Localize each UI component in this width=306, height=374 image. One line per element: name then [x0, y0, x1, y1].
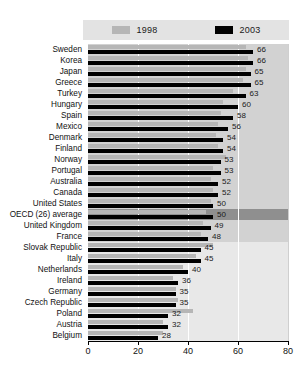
bar-value-label: 52: [222, 189, 231, 197]
x-axis-tick: [238, 341, 239, 345]
bar-value-label: 32: [172, 321, 181, 329]
category-label: Portugal: [52, 167, 83, 175]
category-label: Norway: [54, 156, 82, 164]
category-label: Czech Republic: [25, 299, 82, 307]
bar-2003: [88, 270, 188, 274]
bar-row: 63: [88, 88, 288, 99]
bar-2003: [88, 325, 168, 329]
bar-1998: [88, 122, 218, 126]
bar-2003: [88, 171, 221, 175]
category-label: United Kingdom: [24, 222, 82, 230]
bar-value-label: 50: [217, 200, 226, 208]
bar-row: 65: [88, 77, 288, 88]
bar-row: 52: [88, 187, 288, 198]
bar-row: 53: [88, 154, 288, 165]
bar-value-label: 56: [232, 123, 241, 131]
bar-value-label: 40: [192, 266, 201, 274]
bar-value-label: 65: [255, 79, 264, 87]
bar-row: 66: [88, 44, 288, 55]
bar-2003: [88, 50, 253, 54]
bar-1998: [88, 89, 233, 93]
bar-row: 66: [88, 55, 288, 66]
bar-row: 54: [88, 143, 288, 154]
bar-1998: [88, 287, 176, 291]
bar-row: 58: [88, 110, 288, 121]
category-label: Austria: [57, 321, 82, 329]
bar-1998: [88, 111, 221, 115]
bar-2003: [88, 138, 223, 142]
category-label: Italy: [67, 255, 82, 263]
bar-1998: [88, 199, 211, 203]
category-label: Sweden: [52, 46, 82, 54]
bar-2003: [88, 237, 208, 241]
bar-2003: [88, 127, 228, 131]
category-label: Finland: [55, 145, 82, 153]
bar-2003: [88, 149, 223, 153]
bar-row: 32: [88, 308, 288, 319]
bar-rows: 6666656563605856545453535252505049484545…: [88, 44, 288, 341]
bar-row: 35: [88, 297, 288, 308]
bar-value-label: 45: [205, 255, 214, 263]
bar-2003: [88, 116, 233, 120]
bar-row: 45: [88, 242, 288, 253]
bar-2003: [88, 259, 201, 263]
bar-row: 50: [88, 198, 288, 209]
bar-2003: [88, 83, 251, 87]
bar-value-label: 52: [222, 178, 231, 186]
bar-1998: [88, 331, 163, 335]
bar-row: 60: [88, 99, 288, 110]
bar-1998: [88, 210, 206, 214]
bar-value-label: 53: [225, 167, 234, 175]
legend-label-2003: 2003: [240, 25, 261, 35]
bar-value-label: 49: [215, 222, 224, 230]
legend-swatch-1998: [112, 26, 130, 34]
bar-1998: [88, 166, 213, 170]
bar-1998: [88, 254, 196, 258]
bar-1998: [88, 298, 178, 302]
legend-entry-2003: 2003: [215, 25, 261, 35]
bar-2003: [88, 215, 213, 219]
category-axis-labels: SwedenKoreaJapanGreeceTurkeyHungarySpain…: [0, 44, 85, 341]
bar-row: 36: [88, 275, 288, 286]
bar-value-label: 54: [227, 145, 236, 153]
bar-1998: [88, 56, 248, 60]
bar-1998: [88, 78, 243, 82]
bar-1998: [88, 155, 226, 159]
x-axis-tick-label: 0: [85, 347, 90, 356]
bar-row: 35: [88, 286, 288, 297]
bar-value-label: 60: [242, 101, 251, 109]
x-axis-tick-label: 80: [283, 347, 293, 356]
category-label: Poland: [57, 310, 83, 318]
bar-value-label: 66: [257, 46, 266, 54]
bar-2003: [88, 292, 176, 296]
bar-value-label: 45: [205, 244, 214, 252]
x-axis-tick-label: 20: [133, 347, 143, 356]
bar-2003: [88, 160, 221, 164]
category-label: Netherlands: [38, 266, 82, 274]
chart-legend: 1998 2003: [83, 20, 289, 40]
bar-1998: [88, 133, 216, 137]
category-label: Japan: [60, 68, 82, 76]
bar-chart: 1998 2003 SwedenKoreaJapanGreeceTurkeyHu…: [0, 0, 306, 374]
bar-value-label: 58: [237, 112, 246, 120]
bar-2003: [88, 94, 246, 98]
bar-1998: [88, 45, 246, 49]
bar-value-label: 48: [212, 233, 221, 241]
x-axis-tick: [188, 341, 189, 345]
bar-2003: [88, 72, 251, 76]
category-label: OECD (26) average: [10, 211, 82, 219]
category-label: Australia: [50, 178, 82, 186]
bar-value-label: 32: [172, 310, 181, 318]
category-label: Korea: [60, 57, 82, 65]
bar-row: 50: [88, 209, 288, 220]
category-label: Belgium: [52, 332, 82, 340]
category-label: Spain: [61, 112, 82, 120]
plot-right-edge: [288, 44, 289, 341]
legend-label-1998: 1998: [137, 25, 158, 35]
bar-2003: [88, 61, 253, 65]
bar-value-label: 65: [255, 68, 264, 76]
bar-row: 49: [88, 220, 288, 231]
category-label: Turkey: [57, 90, 82, 98]
bar-value-label: 63: [250, 90, 259, 98]
category-label: Slovak Republic: [23, 244, 82, 252]
